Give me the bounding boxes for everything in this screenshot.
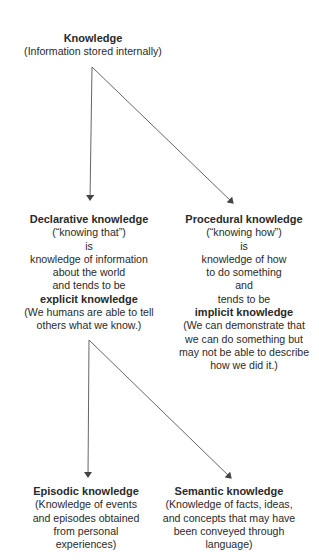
node-description: (Information stored internally) xyxy=(24,45,162,58)
node-note: others what we know.) xyxy=(24,319,153,332)
node-procedural-knowledge: Procedural knowledge (“knowing how”) is … xyxy=(179,213,309,373)
edge-declarative-episodic xyxy=(88,340,89,477)
node-title: Episodic knowledge xyxy=(33,485,140,498)
node-line: (Knowledge of facts, ideas, xyxy=(163,498,296,511)
node-line: been conveyed through xyxy=(163,525,296,538)
node-line: tends to be xyxy=(179,293,309,306)
node-note: may not be able to describe xyxy=(179,346,309,359)
node-knowledge: Knowledge (Information stored internally… xyxy=(24,32,162,59)
node-line: knowledge of how xyxy=(179,253,309,266)
edge-knowledge-declarative xyxy=(90,67,92,200)
node-emphasis: implicit knowledge xyxy=(179,306,309,319)
node-note: (We humans are able to tell xyxy=(24,306,153,319)
node-line: and xyxy=(179,279,309,292)
node-semantic-knowledge: Semantic knowledge (Knowledge of facts, … xyxy=(163,485,296,551)
node-line: (“knowing how”) xyxy=(179,226,309,239)
node-line: from personal xyxy=(33,525,140,538)
node-line: and tends to be xyxy=(24,279,153,292)
node-line: knowledge of information xyxy=(24,253,153,266)
node-title: Procedural knowledge xyxy=(179,213,309,226)
node-emphasis: explicit knowledge xyxy=(24,293,153,306)
node-line: (Knowledge of events xyxy=(33,498,140,511)
node-line: is xyxy=(24,240,153,253)
node-line: and episodes obtained xyxy=(33,512,140,525)
node-title: Knowledge xyxy=(24,32,162,45)
node-line: language) xyxy=(163,538,296,551)
node-episodic-knowledge: Episodic knowledge (Knowledge of events … xyxy=(33,485,140,551)
node-title: Declarative knowledge xyxy=(24,213,153,226)
node-line: to do something xyxy=(179,266,309,279)
node-line: (“knowing that”) xyxy=(24,226,153,239)
node-line: and concepts that may have xyxy=(163,512,296,525)
node-note: (We can demonstrate that xyxy=(179,319,309,332)
node-declarative-knowledge: Declarative knowledge (“knowing that”) i… xyxy=(24,213,153,333)
node-title: Semantic knowledge xyxy=(163,485,296,498)
node-note: we can do something but xyxy=(179,333,309,346)
node-note: how we did it.) xyxy=(179,359,309,372)
node-line: about the world xyxy=(24,266,153,279)
node-line: experiences) xyxy=(33,538,140,551)
edge-knowledge-procedural xyxy=(92,67,233,203)
node-line: is xyxy=(179,240,309,253)
